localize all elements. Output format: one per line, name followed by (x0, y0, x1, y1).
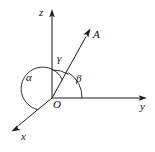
vector-a-label: A (93, 29, 100, 40)
y-axis-label: y (140, 101, 145, 112)
z-axis-label: z (39, 7, 43, 18)
x-axis-label: x (21, 131, 26, 142)
figure-canvas: z y x O A α β γ (0, 0, 155, 152)
gamma-angle-label: γ (57, 53, 61, 64)
x-axis-arrowhead (12, 125, 21, 131)
beta-angle-label: β (76, 73, 81, 84)
vector-a-arrowhead (83, 29, 90, 38)
x-axis-line (19, 98, 53, 126)
alpha-angle-label: α (26, 72, 32, 83)
origin-label: O (53, 99, 61, 110)
